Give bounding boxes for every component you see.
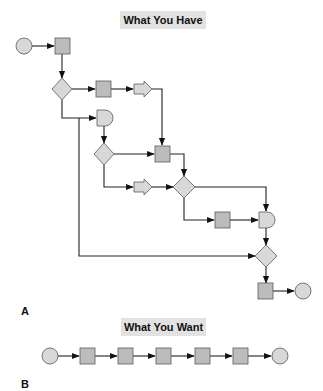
delay-shape-1: [97, 110, 113, 126]
process-box-1: [55, 38, 70, 54]
panel-a-connectors: [32, 46, 294, 291]
decision-diamond-1: [52, 78, 72, 100]
decision-diamond-2: [94, 143, 114, 165]
process-box-b4: [195, 348, 210, 364]
offpage-arrow-icon-2: [134, 179, 152, 195]
start-circle-icon: [16, 38, 32, 54]
decision-diamond-4: [255, 245, 277, 267]
delay-shape-2: [259, 212, 275, 228]
flowchart-canvas: [0, 0, 323, 391]
process-box-b3: [156, 348, 171, 364]
end-circle-icon: [295, 283, 311, 299]
process-box-b2: [118, 348, 133, 364]
process-box-b5: [233, 348, 248, 364]
offpage-arrow-icon-1: [134, 81, 152, 97]
process-box-b1: [80, 348, 95, 364]
start-circle-icon: [42, 348, 58, 364]
process-box-5: [258, 283, 273, 299]
process-box-2: [96, 81, 111, 97]
end-circle-icon: [272, 348, 288, 364]
process-box-3: [155, 146, 170, 162]
process-box-4: [215, 212, 230, 228]
decision-diamond-3: [173, 176, 195, 198]
